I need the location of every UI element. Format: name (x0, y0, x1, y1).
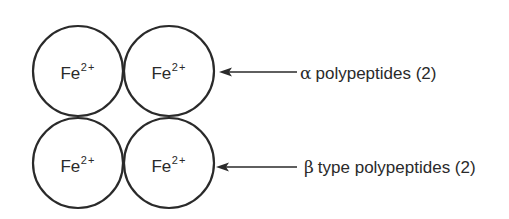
beta-symbol: β (304, 157, 314, 177)
beta-arrow (216, 163, 297, 172)
beta-polypeptides-label: βtype polypeptides (2) (304, 157, 476, 178)
alpha-arrow (219, 68, 297, 77)
fe-ion-label-bottom-right: Fe2+ (152, 155, 187, 177)
alpha-symbol: α (300, 63, 311, 83)
fe-ion-label-bottom-left: Fe2+ (61, 155, 96, 177)
alpha-polypeptides-label: αpolypeptides (2) (300, 63, 436, 84)
fe-ion-label-top-left: Fe2+ (61, 62, 96, 84)
diagram-canvas (0, 0, 509, 219)
fe-ion-label-top-right: Fe2+ (152, 62, 187, 84)
